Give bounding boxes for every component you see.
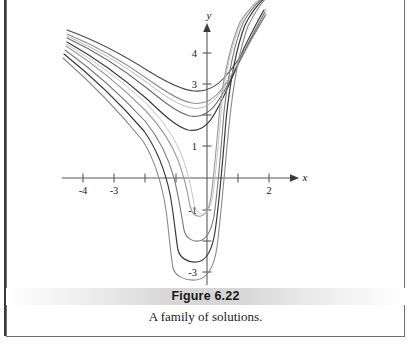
x-tick-label--3: -3 xyxy=(110,185,119,196)
solution-curve-8 xyxy=(63,0,268,280)
figure-number-label: Figure 6.22 xyxy=(6,288,405,305)
solution-curve-7 xyxy=(64,0,266,262)
y-tick-label-3: 3 xyxy=(192,79,197,90)
figure-caption: Figure 6.22 A family of solutions. xyxy=(6,288,405,325)
y-tick-label-1: 1 xyxy=(192,141,197,152)
y-tick-label-4: 4 xyxy=(192,48,198,59)
figure-caption-text: A family of solutions. xyxy=(6,309,405,325)
solution-curve-transition-b xyxy=(66,0,263,214)
figure-page: -4 -3 2 4 3 1 -1 -3 x y xyxy=(0,0,418,351)
y-tick-label--1: -1 xyxy=(188,205,197,216)
x-axis-arrow-icon xyxy=(290,174,299,182)
axes-group xyxy=(62,23,299,285)
tick-labels: -4 -3 2 4 3 1 -1 -3 xyxy=(79,48,272,278)
figure-number-band: Figure 6.22 xyxy=(6,288,405,305)
solution-curve-5 xyxy=(66,0,262,216)
solution-family-plot: -4 -3 2 4 3 1 -1 -3 x y xyxy=(0,0,418,290)
y-axis-label: y xyxy=(206,9,212,21)
x-tick-label-2: 2 xyxy=(266,185,271,196)
solution-curves-lower xyxy=(63,0,268,280)
y-axis-arrow-icon xyxy=(203,23,211,32)
y-tick-label--3: -3 xyxy=(188,267,197,278)
solution-curve-transition-a xyxy=(67,9,266,108)
x-axis-label: x xyxy=(302,171,308,183)
plot-area: -4 -3 2 4 3 1 -1 -3 x y xyxy=(0,0,418,290)
x-tick-label--4: -4 xyxy=(79,185,88,196)
